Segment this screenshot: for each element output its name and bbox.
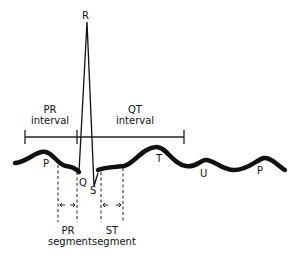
qt-interval-line1: QT xyxy=(115,104,155,115)
pr-segment-line1: PR xyxy=(48,225,88,236)
interval-bars xyxy=(25,130,184,144)
pr-interval-line1: PR xyxy=(30,104,70,115)
label-p2: P xyxy=(257,165,263,176)
segment-arrows xyxy=(60,203,121,207)
qrs-complex xyxy=(79,22,98,186)
label-st-segment: ST segment xyxy=(92,225,132,247)
pr-interval-line2: interval xyxy=(30,115,70,126)
label-r: R xyxy=(82,10,89,21)
label-qt-interval: QT interval xyxy=(115,104,155,126)
label-s: S xyxy=(90,185,96,196)
label-p1: P xyxy=(43,158,49,169)
label-pr-segment: PR segment xyxy=(48,225,88,247)
label-pr-interval: PR interval xyxy=(30,104,70,126)
label-u: U xyxy=(200,168,207,179)
label-t: T xyxy=(156,153,162,164)
ecg-diagram xyxy=(0,0,304,261)
label-q: Q xyxy=(79,177,87,188)
st-segment-line2: segment xyxy=(92,236,132,247)
qt-interval-line2: interval xyxy=(115,115,155,126)
st-segment-line1: ST xyxy=(92,225,132,236)
pr-segment-line2: segment xyxy=(48,236,88,247)
